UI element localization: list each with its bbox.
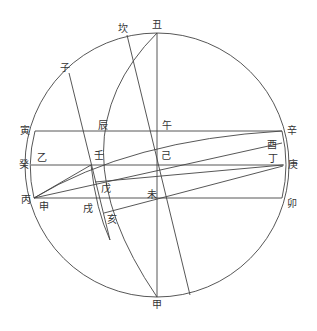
line-bing-you <box>34 143 282 198</box>
label-hai: 亥 <box>107 215 117 225</box>
label-gui: 癸 <box>19 160 29 170</box>
label-shen: 申 <box>39 202 49 212</box>
label-yin: 寅 <box>20 126 30 136</box>
label-zi: 子 <box>60 63 70 73</box>
label-yi: 乙 <box>37 153 47 163</box>
label-wu: 午 <box>162 121 172 131</box>
label-mao: 卯 <box>287 199 297 209</box>
label-ji: 己 <box>161 151 171 161</box>
label-kan: 坎 <box>118 24 128 34</box>
label-bing: 丙 <box>21 195 31 205</box>
label-geng: 庚 <box>288 160 298 170</box>
label-ren: 壬 <box>94 151 104 161</box>
arc-xin-mao <box>282 131 286 198</box>
label-you: 酉 <box>267 140 277 150</box>
label-xin: 辛 <box>287 126 297 136</box>
label-ding: 丁 <box>268 154 278 164</box>
label-chen: 辰 <box>98 121 108 131</box>
label-wei: 未 <box>147 190 157 200</box>
label-wu2: 戊 <box>101 184 111 194</box>
label-chou: 丑 <box>152 20 162 30</box>
label-jia: 甲 <box>152 300 162 310</box>
line-bing-ren <box>34 165 91 198</box>
construction-figure <box>0 0 317 331</box>
arc-yin-bing <box>30 131 35 198</box>
label-xu: 戌 <box>83 204 93 214</box>
